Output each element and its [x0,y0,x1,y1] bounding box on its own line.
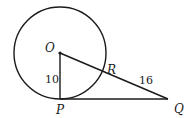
label-p: P [55,103,65,117]
length-op: 10 [45,73,59,86]
label-r: R [106,63,116,77]
label-o: O [45,41,55,55]
center-point-o [58,51,61,54]
label-q: Q [174,102,184,116]
length-rq: 16 [139,74,153,87]
geometry-diagram: O P Q R 10 16 [0,0,189,118]
